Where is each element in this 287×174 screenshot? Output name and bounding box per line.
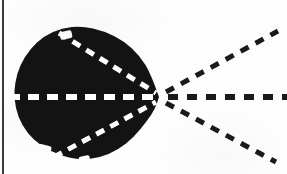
figure-canvas: Dashed rays converging at a vertex on a … xyxy=(0,0,287,174)
diagram-svg: Dashed rays converging at a vertex on a … xyxy=(0,0,287,174)
